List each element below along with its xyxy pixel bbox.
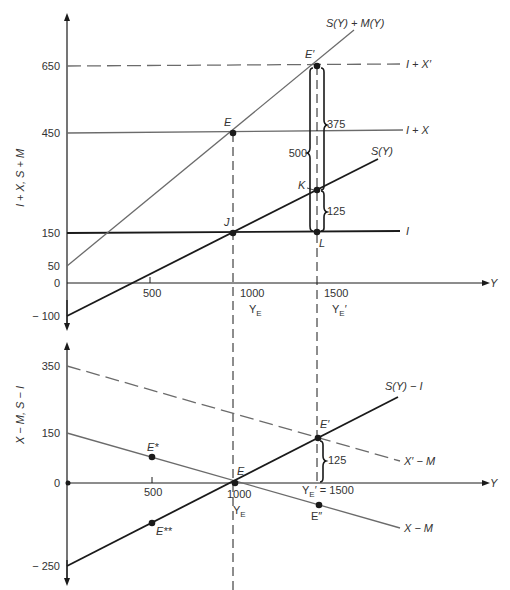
label-e: E: [224, 116, 232, 128]
top-ytick-450: 450: [42, 127, 60, 139]
bottom-xtick-500: 500: [144, 486, 162, 498]
label-e-star-star: E**: [156, 525, 173, 537]
label-k: K: [298, 179, 306, 191]
point-e-bottom: [232, 480, 239, 487]
top-yeprime-label: YE′: [332, 303, 347, 318]
bottom-panel: 350 150 0 − 250 500 1000 YE YE′ = 1500 Y…: [14, 346, 498, 582]
label-j: J: [223, 216, 230, 228]
bottom-ye-label: YE: [233, 504, 246, 519]
top-ytick-minus100: − 100: [32, 310, 60, 322]
label-i-plus-x-prime: I + X′: [406, 58, 432, 70]
brace-500: [307, 68, 313, 231]
bottom-ytick-150: 150: [42, 427, 60, 439]
label-l: L: [319, 237, 325, 249]
label-e-star: E*: [147, 441, 159, 453]
label-i-plus-x: I + X: [406, 124, 430, 136]
label-x-minus-m: X − M: [403, 522, 434, 534]
point-j: [230, 230, 237, 237]
top-panel: 650 450 150 50 0 − 100 500 1000 1500 YE …: [14, 17, 498, 590]
point-e-star-star: [149, 520, 156, 527]
bottom-ytick-350: 350: [42, 360, 60, 372]
label-e-bottom: E: [237, 465, 245, 477]
top-xtick-500: 500: [143, 287, 161, 299]
point-e: [230, 130, 237, 137]
point-e-star: [149, 454, 156, 461]
top-xtick-1000: 1000: [240, 287, 264, 299]
label-i: I: [406, 225, 409, 237]
label-e-prime: E′: [305, 48, 315, 60]
label-e-prime-bottom: E′: [320, 418, 330, 430]
point-e-double-prime: [316, 502, 323, 509]
label-e-double-prime: E″: [311, 510, 322, 522]
label-s-minus-i: S(Y) − I: [385, 380, 423, 392]
label-x-prime-minus-m: X′ − M: [403, 455, 436, 467]
bottom-xtick-1000: 1000: [227, 488, 251, 500]
label-s-plus-m: S(Y) + M(Y): [326, 17, 385, 29]
point-e-prime: [314, 63, 321, 70]
top-ytick-0: 0: [54, 277, 60, 289]
top-ytick-150: 150: [42, 227, 60, 239]
bottom-x-axis-title: Y: [490, 477, 498, 489]
brace-label-125: 125: [327, 205, 345, 217]
bottom-ytick-minus250: − 250: [32, 560, 60, 572]
brace-label-500: 500: [289, 147, 307, 159]
bottom-ye-prime-eq: YE′ = 1500: [302, 484, 354, 499]
top-ytick-50: 50: [48, 260, 60, 272]
top-xtick-1500: 1500: [324, 287, 348, 299]
brace-label-375: 375: [327, 118, 345, 130]
top-x-axis-title: Y: [490, 277, 498, 289]
bottom-origin: [66, 481, 71, 486]
bottom-y-axis-title: X − M, S − I: [14, 386, 26, 445]
brace-label-125-bottom: 125: [328, 454, 346, 466]
two-panel-open-economy-chart: 650 450 150 50 0 − 100 500 1000 1500 YE …: [0, 0, 510, 590]
label-s: S(Y): [371, 145, 393, 157]
point-k: [314, 187, 321, 194]
bottom-ytick-0: 0: [54, 477, 60, 489]
brace-125-bottom: [320, 441, 326, 482]
top-ye-label: YE: [249, 303, 262, 318]
series-i-plus-x-prime: [67, 64, 400, 66]
point-e-prime-bottom: [315, 435, 322, 442]
top-y-axis-title: I + X, S + M: [14, 148, 26, 207]
top-ytick-650: 650: [42, 60, 60, 72]
point-l: [314, 229, 321, 236]
